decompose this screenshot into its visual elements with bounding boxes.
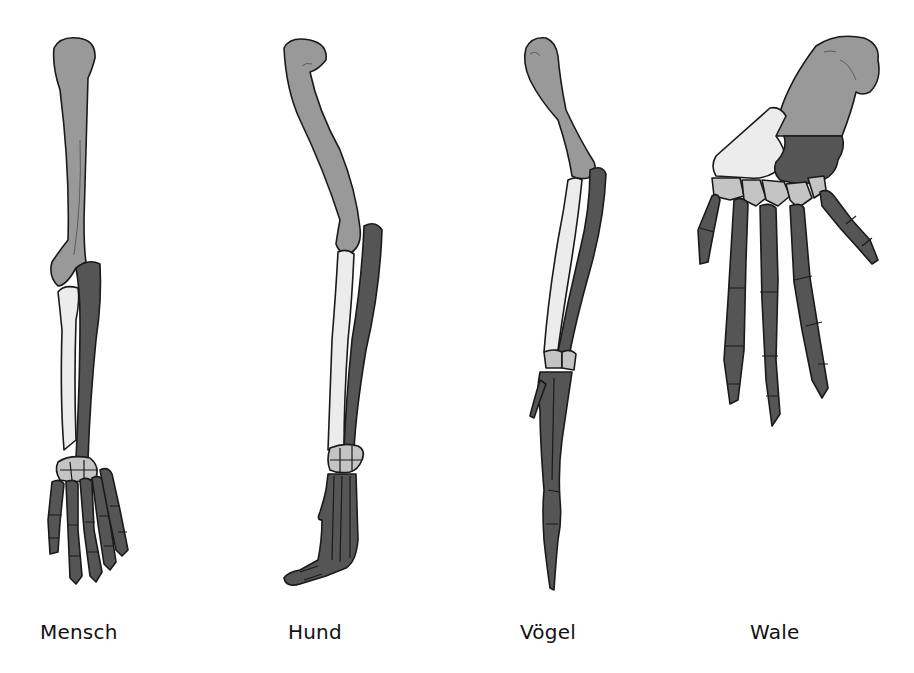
label-whale: Wale bbox=[750, 620, 799, 644]
human-arm bbox=[48, 38, 128, 584]
label-dog: Hund bbox=[288, 620, 342, 644]
dog-leg bbox=[284, 39, 382, 585]
homologous-limbs-diagram bbox=[0, 0, 914, 673]
label-human: Mensch bbox=[40, 620, 118, 644]
label-bird: Vögel bbox=[520, 620, 576, 644]
bird-wing bbox=[525, 38, 606, 590]
whale-flipper bbox=[698, 36, 879, 426]
